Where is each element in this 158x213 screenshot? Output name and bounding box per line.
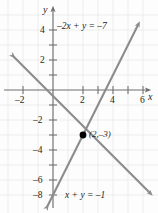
x-tick-label--2: –2 bbox=[15, 96, 25, 106]
axes bbox=[4, 9, 148, 208]
equation-label-line-2: x + y = –1 bbox=[65, 191, 105, 201]
y-axis-label: y bbox=[43, 5, 47, 15]
graph-canvas bbox=[0, 0, 158, 213]
x-tick-label-4: 4 bbox=[110, 96, 115, 106]
equation-label-line-1: –2x + y = –7 bbox=[57, 22, 107, 32]
coordinate-plane-figure: y x –2 2 4 6 4 2 –2 –4 –6 –8 –2x + y = –… bbox=[0, 0, 158, 213]
intersection-point-marker bbox=[80, 132, 87, 139]
y-tick-label-2: 2 bbox=[40, 56, 45, 66]
x-tick-label-6: 6 bbox=[140, 96, 145, 106]
y-tick-label--2: –2 bbox=[33, 116, 43, 126]
x-axis-label: x bbox=[148, 92, 152, 102]
x-tick-label-2: 2 bbox=[80, 96, 85, 106]
y-tick-label--6: –6 bbox=[33, 176, 43, 186]
intersection-point-label: (2,–3) bbox=[89, 130, 111, 139]
y-tick-label--8: –8 bbox=[33, 191, 43, 201]
y-tick-label--4: –4 bbox=[33, 146, 43, 156]
y-tick-label-4: 4 bbox=[40, 26, 45, 36]
line-series-1 bbox=[47, 24, 139, 207]
